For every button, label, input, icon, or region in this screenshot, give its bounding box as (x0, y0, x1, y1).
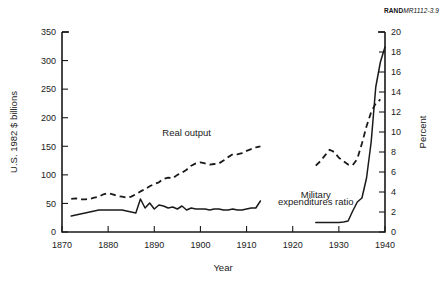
right-tick-label: 16 (391, 67, 401, 77)
right-tick-label: 18 (391, 47, 401, 57)
right-tick-label: 20 (391, 27, 401, 37)
annotation-3: expenditures ratio (278, 196, 354, 207)
left-tick-label: 0 (51, 227, 56, 237)
x-tick-label: 1880 (98, 240, 118, 250)
right-axis-tick-labels: 02468101214161820 (391, 27, 401, 237)
line-chart: 050100150200250300350 02468101214161820 … (0, 0, 447, 285)
right-tick-label: 6 (391, 167, 396, 177)
figure-container: RANDMR1112-3.9 050100150200250300350 024… (0, 0, 447, 285)
right-tick-label: 12 (391, 107, 401, 117)
left-axis-ticks (62, 32, 68, 232)
x-tick-label: 1870 (52, 240, 72, 250)
right-tick-label: 4 (391, 187, 396, 197)
right-tick-label: 10 (391, 127, 401, 137)
left-tick-label: 50 (46, 199, 56, 209)
right-tick-label: 14 (391, 87, 401, 97)
left-axis-tick-labels: 050100150200250300350 (41, 27, 56, 237)
x-tick-label: 1900 (190, 240, 210, 250)
rand-brand-label: RAND (384, 7, 403, 14)
annotation-1: Real output (162, 127, 211, 138)
x-axis-title: Year (213, 262, 232, 273)
x-tick-label: 1890 (144, 240, 164, 250)
y2-axis-title: Percent (417, 115, 428, 148)
series-annotations: Real outputMilitaryexpenditures ratio (162, 127, 353, 207)
left-tick-label: 250 (41, 84, 56, 94)
left-tick-label: 100 (41, 170, 56, 180)
right-tick-label: 8 (391, 147, 396, 157)
right-tick-label: 0 (391, 227, 396, 237)
rand-report-number: MR1112-3.9 (403, 7, 439, 14)
series-line-1-segment-2 (316, 99, 381, 165)
series-line-2-segment-1 (71, 199, 260, 216)
left-tick-label: 300 (41, 56, 56, 66)
x-axis-tick-labels: 18701880189019001910192019301940 (52, 240, 395, 250)
series-line-1-segment-1 (71, 146, 260, 199)
left-tick-label: 350 (41, 27, 56, 37)
rand-document-code: RANDMR1112-3.9 (384, 7, 439, 14)
left-tick-label: 150 (41, 142, 56, 152)
x-axis-ticks (62, 226, 385, 232)
right-tick-label: 2 (391, 207, 396, 217)
x-tick-label: 1910 (237, 240, 257, 250)
x-tick-label: 1920 (283, 240, 303, 250)
left-tick-label: 200 (41, 113, 56, 123)
x-tick-label: 1930 (329, 240, 349, 250)
x-tick-label: 1940 (375, 240, 395, 250)
y-axis-title: U.S. 1982 $ billions (8, 91, 19, 173)
